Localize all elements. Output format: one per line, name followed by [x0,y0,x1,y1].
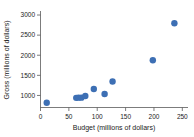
x-tick-label: 150 [120,113,131,120]
x-axis-tick-labels: 050100150200250 [39,113,188,120]
x-axis: 050100150200250 Budget (millions of doll… [39,108,188,133]
y-tick-label: 3000 [21,11,36,18]
chart-canvas: 10001500200025003000 Gross (millions of … [0,0,194,137]
data-point [44,99,50,105]
scatter-chart: 10001500200025003000 Gross (millions of … [0,0,194,137]
x-axis-ticks [41,108,183,112]
data-point-series [44,20,178,106]
x-tick-label: 200 [149,113,160,120]
y-axis-tick-labels: 10001500200025003000 [21,11,36,98]
y-axis-ticks [37,15,41,95]
y-tick-label: 2500 [21,31,36,38]
y-axis-title: Gross (millions of dollars) [3,21,11,100]
y-tick-label: 1000 [21,92,36,99]
data-point [101,91,107,97]
y-tick-label: 1500 [21,72,36,79]
data-point [91,86,97,92]
x-tick-label: 50 [65,113,73,120]
x-tick-label: 0 [39,113,43,120]
data-point [109,78,115,84]
x-tick-label: 100 [92,113,103,120]
x-axis-title: Budget (millions of dollars) [73,124,155,132]
x-tick-label: 250 [177,113,188,120]
y-axis: 10001500200025003000 Gross (millions of … [3,11,41,108]
y-tick-label: 2000 [21,52,36,59]
data-point [171,20,177,26]
data-point [150,57,156,63]
data-point [82,93,88,99]
